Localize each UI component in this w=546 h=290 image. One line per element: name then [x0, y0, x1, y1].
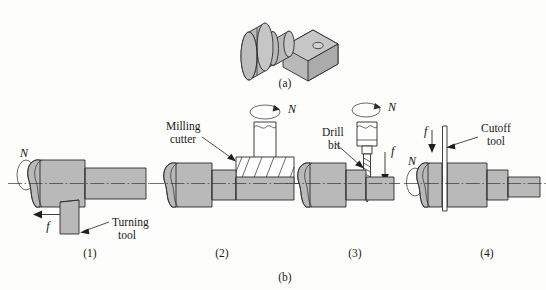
feed-label-1: f [46, 219, 51, 233]
figure-canvas: (a) N [0, 0, 546, 290]
caption-2: (2) [215, 247, 229, 260]
part-a-isometric [241, 23, 338, 81]
cutoff-tool-label-line2: tool [487, 135, 505, 147]
machining-operations-diagram: (a) N [0, 0, 546, 290]
feed-label-4: f [424, 124, 429, 138]
feed-arrow-1 [33, 211, 60, 219]
milling-cutter-label-line1: Milling [166, 120, 201, 133]
panel-2-milling: N [150, 102, 300, 260]
turning-tool-label-line2: tool [118, 229, 136, 241]
feed-arrow-4 [428, 130, 436, 153]
turning-tool-arrowhead [80, 228, 89, 234]
cutoff-tool-label-line1: Cutoff [481, 122, 511, 134]
caption-a: (a) [279, 77, 292, 90]
rotation-label-3: N [387, 100, 397, 114]
rotation-label-4: N [407, 154, 417, 168]
panel-1-turning: N f Turn [8, 146, 152, 260]
caption-1: (1) [83, 247, 97, 260]
caption-3: (3) [348, 247, 362, 260]
panel-4-cutoff: N f [404, 122, 546, 260]
panel-3-drilling: N f [286, 100, 400, 260]
rotation-label-1: N [19, 146, 29, 160]
caption-b: (b) [278, 271, 292, 284]
rotation-label-2: N [287, 102, 297, 116]
drill-bit-label-line1: Drill [322, 126, 344, 138]
milling-cutter-arrowhead [227, 154, 236, 162]
turning-tool [60, 200, 79, 234]
cutoff-tool-blade [443, 126, 448, 211]
caption-4: (4) [480, 247, 494, 260]
turning-tool-label-line1: Turning [112, 216, 149, 229]
drill-bit-label-line2: bit [328, 139, 341, 151]
feed-label-3: f [391, 144, 396, 158]
rotation-arrow-3 [352, 103, 381, 117]
milling-cutter-leader [202, 137, 233, 159]
rotation-arrow-2 [250, 105, 280, 119]
milling-cutter-label-line2: cutter [170, 133, 196, 145]
